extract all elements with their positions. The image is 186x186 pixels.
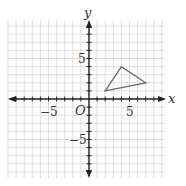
y-tick-label-5: 5 (78, 52, 86, 66)
y-tick-label-neg5: −5 (69, 133, 87, 147)
x-axis-label: x (168, 91, 176, 106)
x-tick-label-5: 5 (126, 105, 134, 119)
labels-layer: x y O −5 5 5 −5 (0, 0, 186, 186)
coordinate-plane: x y O −5 5 5 −5 (0, 0, 186, 186)
x-tick-label-neg5: −5 (40, 105, 58, 119)
y-axis-label: y (83, 5, 92, 20)
origin-label: O (75, 103, 86, 118)
